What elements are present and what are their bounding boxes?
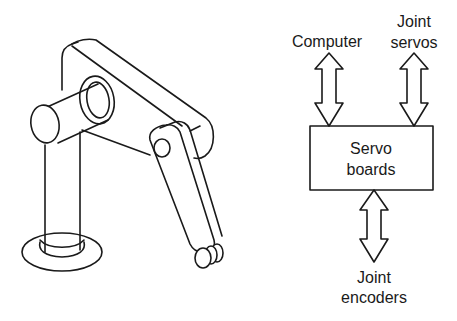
servo-boards-label-line2: boards	[347, 161, 396, 178]
joint-servos-label-line2: servos	[390, 34, 437, 51]
upper-arm-link	[62, 39, 213, 158]
shoulder-shaft	[28, 73, 118, 145]
robot-arm-illustration	[22, 39, 223, 271]
servo-boards-block	[310, 126, 433, 190]
forearm-link	[150, 121, 222, 252]
joint-servos-double-arrow-icon	[400, 53, 428, 126]
joint-encoders-double-arrow-icon	[360, 190, 388, 262]
servo-boards-label-line1: Servo	[350, 140, 392, 157]
computer-label: Computer	[292, 33, 363, 50]
joint-servos-label-line1: Joint	[397, 13, 431, 30]
joint-encoders-label-line2: encoders	[341, 289, 407, 306]
computer-double-arrow-icon	[315, 53, 343, 126]
block-diagram	[310, 53, 433, 262]
joint-encoders-label-line1: Joint	[357, 269, 391, 286]
robot-base	[22, 233, 102, 271]
figure: Computer Joint servos Servo boards Joint…	[0, 0, 457, 321]
